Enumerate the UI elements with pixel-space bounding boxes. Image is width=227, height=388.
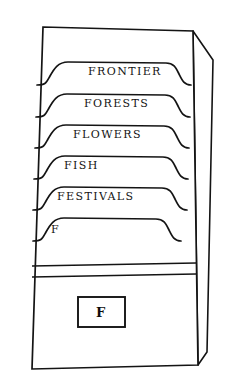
folder-label-festivals: FESTIVALS <box>57 191 134 202</box>
folder-tab-fish[interactable] <box>34 156 188 179</box>
folder-label-f: F <box>51 224 60 235</box>
folder-label-flowers: FLOWERS <box>73 129 142 140</box>
folder-label-frontier: FRONTIER <box>88 66 162 77</box>
folder-label-fish: FISH <box>64 160 99 171</box>
front-card-label: F <box>96 306 105 319</box>
file-box-illustration: FRONTIER FORESTS FLOWERS FISH FESTIVALS … <box>0 0 227 388</box>
folder-label-forests: FORESTS <box>84 98 149 109</box>
